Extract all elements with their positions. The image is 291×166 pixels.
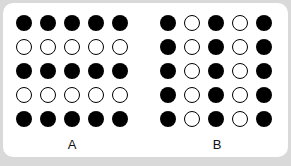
filled-circle-a-r4c2 <box>64 111 80 127</box>
filled-circle-a-r0c1 <box>40 15 56 31</box>
filled-circle-b-r1c0 <box>160 39 176 55</box>
filled-circle-b-r1c2 <box>208 39 224 55</box>
filled-circle-a-r0c3 <box>88 15 104 31</box>
filled-circle-a-r4c4 <box>112 111 128 127</box>
filled-circle-b-r0c4 <box>256 15 272 31</box>
empty-circle-b-r4c1 <box>184 111 200 127</box>
filled-circle-a-r2c4 <box>112 63 128 79</box>
empty-circle-a-r3c2 <box>64 87 80 103</box>
filled-circle-b-r1c4 <box>256 39 272 55</box>
filled-circle-a-r4c1 <box>40 111 56 127</box>
filled-circle-a-r4c3 <box>88 111 104 127</box>
filled-circle-b-r4c4 <box>256 111 272 127</box>
filled-circle-b-r3c0 <box>160 87 176 103</box>
empty-circle-b-r2c3 <box>232 63 248 79</box>
filled-circle-b-r2c2 <box>208 63 224 79</box>
empty-circle-a-r3c4 <box>112 87 128 103</box>
filled-circle-b-r4c2 <box>208 111 224 127</box>
empty-circle-a-r3c0 <box>16 87 32 103</box>
filled-circle-b-r2c4 <box>256 63 272 79</box>
filled-circle-b-r0c2 <box>208 15 224 31</box>
filled-circle-b-r0c0 <box>160 15 176 31</box>
empty-circle-b-r3c1 <box>184 87 200 103</box>
filled-circle-a-r4c0 <box>16 111 32 127</box>
filled-circle-a-r0c4 <box>112 15 128 31</box>
empty-circle-b-r3c3 <box>232 87 248 103</box>
empty-circle-b-r1c1 <box>184 39 200 55</box>
empty-circle-b-r0c1 <box>184 15 200 31</box>
empty-circle-a-r3c1 <box>40 87 56 103</box>
panel-label-b: B <box>207 137 227 152</box>
filled-circle-a-r0c0 <box>16 15 32 31</box>
empty-circle-a-r1c0 <box>16 39 32 55</box>
filled-circle-a-r0c2 <box>64 15 80 31</box>
filled-circle-a-r2c3 <box>88 63 104 79</box>
figure-card: A B <box>3 3 288 157</box>
empty-circle-a-r1c1 <box>40 39 56 55</box>
filled-circle-a-r2c1 <box>40 63 56 79</box>
filled-circle-b-r2c0 <box>160 63 176 79</box>
empty-circle-b-r2c1 <box>184 63 200 79</box>
dot-grid-b <box>160 15 272 127</box>
empty-circle-b-r0c3 <box>232 15 248 31</box>
empty-circle-a-r1c3 <box>88 39 104 55</box>
empty-circle-b-r4c3 <box>232 111 248 127</box>
filled-circle-a-r2c2 <box>64 63 80 79</box>
empty-circle-a-r3c3 <box>88 87 104 103</box>
empty-circle-a-r1c4 <box>112 39 128 55</box>
filled-circle-b-r3c4 <box>256 87 272 103</box>
dot-grid-a <box>16 15 128 127</box>
empty-circle-a-r1c2 <box>64 39 80 55</box>
filled-circle-b-r4c0 <box>160 111 176 127</box>
empty-circle-b-r1c3 <box>232 39 248 55</box>
filled-circle-a-r2c0 <box>16 63 32 79</box>
filled-circle-b-r3c2 <box>208 87 224 103</box>
panel-label-a: A <box>62 137 82 152</box>
